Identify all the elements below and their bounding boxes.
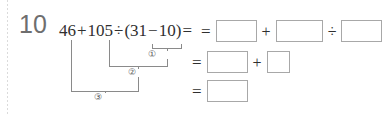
step-label-2: ② <box>128 68 136 77</box>
worksheet-problem-page: 10 46+105÷(31−10)= ① ② ③ = + ÷ = + <box>0 0 385 114</box>
problem-number: 10 <box>19 12 47 37</box>
row-2-equals: = <box>192 54 202 71</box>
answer-blank-1-3[interactable] <box>341 20 382 42</box>
answer-blank-3-1[interactable] <box>207 80 248 102</box>
answer-blank-1-1[interactable] <box>216 20 257 42</box>
bracket-step-2 <box>110 40 168 67</box>
operand-31: 31 <box>130 21 147 40</box>
plus-operator: + <box>76 21 88 40</box>
step-label-3: ③ <box>94 93 102 102</box>
operand-10: 10 <box>159 21 176 40</box>
answer-blank-2-2[interactable] <box>267 51 290 73</box>
page-margin-rule <box>7 0 8 114</box>
row-2-plus: + <box>253 54 262 71</box>
equals-operator: = <box>181 21 193 40</box>
answer-row-1: = + ÷ <box>201 20 382 42</box>
divide-operator: ÷ <box>113 21 124 40</box>
operand-46: 46 <box>59 21 76 40</box>
answer-blank-2-1[interactable] <box>207 51 248 73</box>
row-3-equals: = <box>192 83 202 100</box>
operand-105: 105 <box>88 21 114 40</box>
row-1-equals: = <box>201 23 211 40</box>
row-1-plus: + <box>262 23 271 40</box>
math-expression: 46+105÷(31−10)= <box>59 22 193 39</box>
minus-operator: − <box>147 21 159 40</box>
bracket-step-1 <box>153 44 182 49</box>
bracket-step-3 <box>72 40 139 92</box>
answer-row-3: = <box>192 80 248 102</box>
answer-row-2: = + <box>192 51 290 73</box>
step-label-1: ① <box>148 50 156 59</box>
answer-blank-1-2[interactable] <box>276 20 323 42</box>
row-1-divide: ÷ <box>328 23 337 40</box>
